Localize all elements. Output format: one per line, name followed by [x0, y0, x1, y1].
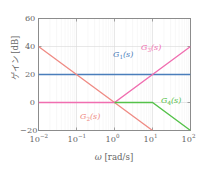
y-tick-label: 0 — [30, 98, 35, 106]
plot-canvas — [0, 0, 200, 172]
x-axis-label: ω [rad/s] — [38, 152, 190, 162]
x-axis-label-symbol: ω — [95, 152, 102, 162]
y-axis-label-text: ゲイン [dB] — [10, 36, 20, 81]
x-tick-label: 10−2 — [30, 135, 49, 143]
x-tick-label: 101 — [144, 135, 158, 143]
x-axis-label-unit: [rad/s] — [105, 152, 134, 162]
y-tick-label: 20 — [25, 70, 35, 78]
series-label-g4: G4(s) — [161, 97, 181, 105]
x-tick-label: 10−1 — [68, 135, 87, 143]
series-label-g2: G2(s) — [80, 113, 100, 121]
x-tick-label: 102 — [182, 135, 196, 143]
series-label-g3: G3(s) — [141, 44, 161, 52]
y-tick-label: 60 — [25, 14, 35, 22]
series-label-g1: G1(s) — [113, 51, 133, 59]
y-tick-label: −20 — [20, 126, 37, 134]
y-tick-label: 40 — [25, 42, 35, 50]
y-axis-label: ゲイン [dB] — [8, 16, 20, 100]
bode-magnitude-chart: 10−210−1100101102 6040200−20 G1(s)G3(s)G… — [0, 0, 200, 172]
x-tick-label: 100 — [106, 135, 120, 143]
